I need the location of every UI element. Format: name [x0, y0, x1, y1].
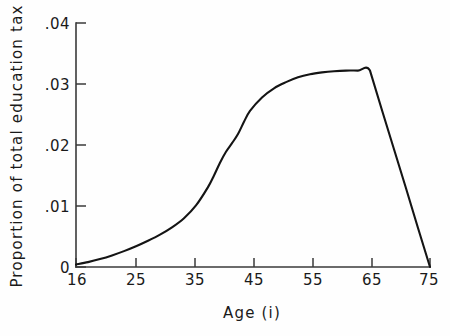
x-tick-label-16: 16 — [67, 271, 87, 289]
y-axis-title: Proportion of total education tax — [8, 4, 26, 287]
line-chart-svg: Proportion of total education tax .04 .0… — [0, 0, 450, 336]
y-tick-label-0.02: .02 — [45, 137, 70, 155]
x-tick-label-55: 55 — [303, 271, 323, 289]
y-axis-ticks — [76, 23, 86, 267]
x-axis-ticks — [76, 258, 430, 267]
x-axis-tick-labels: 16 25 35 45 55 65 75 — [67, 271, 439, 289]
x-tick-label-75: 75 — [419, 271, 439, 289]
y-tick-label-0.04: .04 — [45, 15, 70, 33]
x-tick-label-65: 65 — [362, 271, 382, 289]
y-tick-label-0.03: .03 — [45, 76, 70, 94]
chart-figure: Proportion of total education tax .04 .0… — [0, 0, 450, 336]
x-axis-title: Age (i) — [223, 304, 281, 322]
education-tax-curve — [76, 68, 430, 267]
x-tick-label-35: 35 — [185, 271, 205, 289]
x-tick-label-25: 25 — [126, 271, 146, 289]
y-tick-label-0.01: .01 — [45, 198, 70, 216]
x-tick-label-45: 45 — [244, 271, 264, 289]
y-axis-tick-labels: .04 .03 .02 .01 0 — [45, 15, 70, 277]
